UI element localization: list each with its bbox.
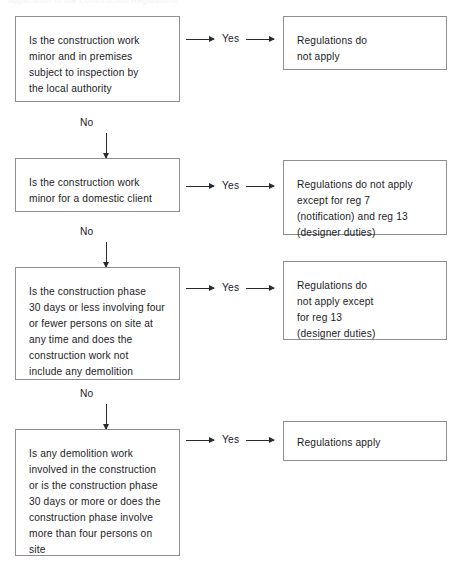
yes-connector-3: Yes (186, 278, 274, 298)
question-box-2[interactable]: Is the construction work minor for a dom… (15, 158, 180, 212)
arrow-right-icon (246, 39, 274, 40)
arrow-right-icon (186, 440, 214, 441)
yes-connector-4: Yes (186, 430, 274, 450)
no-connector-1: No (80, 117, 136, 158)
question-box-2-text: Is the construction work minor for a dom… (29, 175, 152, 207)
arrow-right-icon (186, 288, 214, 289)
clipped-header-text: Application of the Construction Regulati… (8, 0, 308, 6)
arrow-down-icon (106, 133, 107, 158)
outcome-box-3-text: Regulations do not apply except for reg … (297, 278, 375, 342)
question-box-4[interactable]: Is any demolition work involved in the c… (15, 429, 180, 556)
yes-connector-2: Yes (186, 176, 274, 196)
question-box-4-text: Is any demolition work involved in the c… (29, 446, 160, 558)
outcome-box-4[interactable]: Regulations apply (283, 421, 447, 461)
no-label-3: No (80, 388, 93, 400)
outcome-box-3[interactable]: Regulations do not apply except for reg … (283, 261, 447, 340)
outcome-box-2-text: Regulations do not apply except for reg … (297, 177, 413, 241)
yes-label-3: Yes (214, 282, 246, 294)
arrow-right-icon (186, 39, 214, 40)
arrow-right-icon (246, 186, 274, 187)
question-box-3[interactable]: Is the construction phase 30 days or les… (15, 267, 180, 380)
arrow-down-icon (106, 404, 107, 429)
question-box-1-text: Is the construction work minor and in pr… (29, 33, 140, 97)
outcome-box-4-text: Regulations apply (297, 435, 381, 451)
arrow-right-icon (246, 440, 274, 441)
yes-label-1: Yes (214, 33, 246, 45)
yes-label-2: Yes (214, 180, 246, 192)
question-box-1[interactable]: Is the construction work minor and in pr… (15, 16, 180, 102)
no-label-1: No (80, 117, 93, 129)
yes-label-4: Yes (214, 434, 246, 446)
outcome-box-2[interactable]: Regulations do not apply except for reg … (283, 160, 447, 235)
arrow-right-icon (186, 186, 214, 187)
outcome-box-1-text: Regulations do not apply (297, 33, 367, 65)
arrow-down-icon (106, 242, 107, 267)
no-connector-3: No (80, 388, 136, 429)
yes-connector-1: Yes (186, 29, 274, 49)
outcome-box-1[interactable]: Regulations do not apply (283, 16, 447, 70)
no-label-2: No (80, 226, 93, 238)
flowchart-canvas: Application of the Construction Regulati… (0, 0, 460, 570)
no-connector-2: No (80, 226, 136, 267)
arrow-right-icon (246, 288, 274, 289)
question-box-3-text: Is the construction phase 30 days or les… (29, 284, 165, 380)
